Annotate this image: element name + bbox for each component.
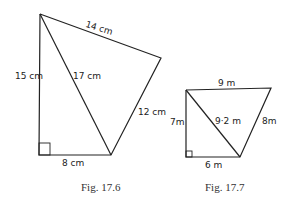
fig1-left-side-label: 15 cm	[15, 72, 43, 81]
diagram-canvas	[0, 0, 287, 200]
fig2-left-side-label: 7m	[170, 118, 185, 127]
fig1-caption: Fig. 17.6	[81, 182, 120, 193]
fig2-bottom-side-label: 6 m	[205, 161, 222, 170]
fig2-top-side-label: 9 m	[218, 79, 235, 88]
fig1-bottom-side-label: 8 cm	[62, 159, 84, 168]
fig2-caption: Fig. 17.7	[205, 182, 244, 193]
fig2-right-side-label: 8m	[262, 117, 277, 126]
fig1-right-side-label: 12 cm	[138, 108, 166, 117]
fig1-diagonal-label: 17 cm	[73, 72, 101, 81]
fig-17-6-quadrilateral	[39, 14, 161, 155]
fig2-diagonal-label: 9·2 m	[215, 117, 241, 126]
